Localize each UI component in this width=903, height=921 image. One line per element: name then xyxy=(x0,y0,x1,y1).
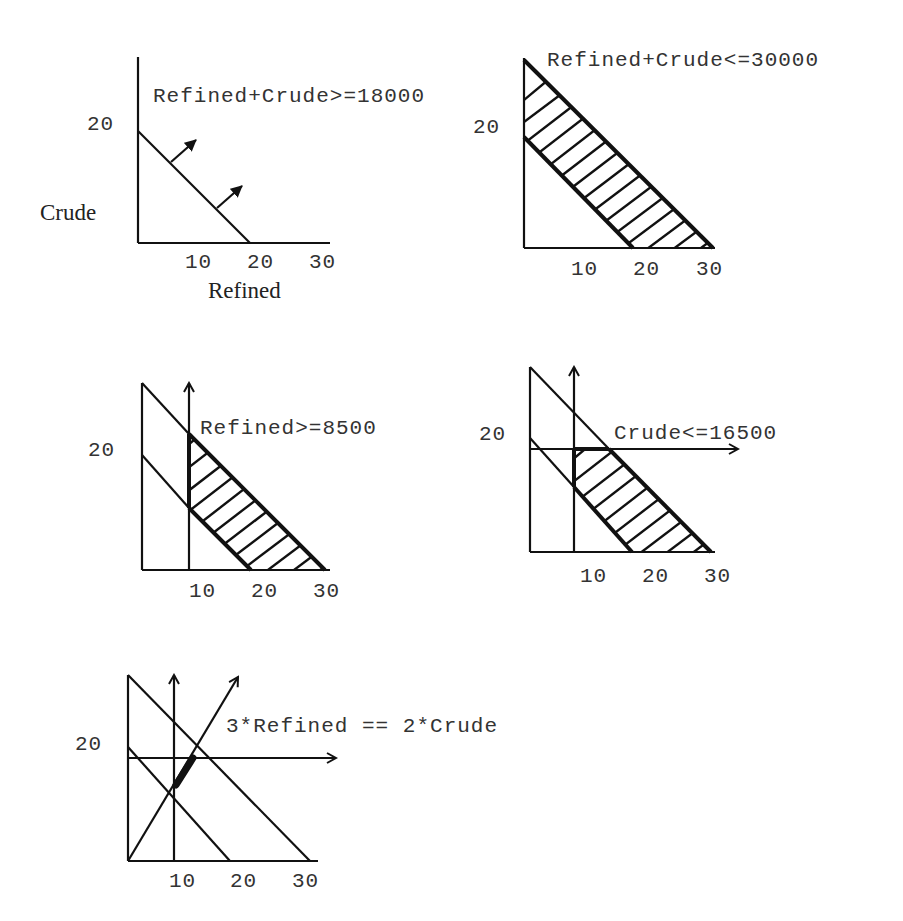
constraint-line-sum30 xyxy=(128,675,310,861)
constraint-line-sum30-outer xyxy=(530,367,609,449)
x-tick-30: 30 xyxy=(292,870,319,893)
panel-label: 3*Refined == 2*Crude xyxy=(226,715,498,738)
panel-label: Crude<=16500 xyxy=(614,422,777,445)
x-tick-30: 30 xyxy=(704,565,731,588)
x-tick-10: 10 xyxy=(169,870,196,893)
x-tick-10: 10 xyxy=(571,258,598,281)
diagram-canvas: Refined+Crude>=18000 20 Crude 10 20 30 R… xyxy=(0,0,903,921)
x-axis-label: Refined xyxy=(208,278,281,303)
constraint-line-sum18 xyxy=(189,508,251,570)
panel-5: 3*Refined == 2*Crude 20 10 20 30 xyxy=(75,675,498,893)
constraint-line-sum30 xyxy=(524,60,713,248)
arrow-icon xyxy=(171,140,196,162)
panel-3: Refined>=8500 20 10 20 30 xyxy=(88,383,490,639)
x-tick-20: 20 xyxy=(633,258,660,281)
feasible-segment xyxy=(176,758,193,785)
x-tick-10: 10 xyxy=(185,251,212,274)
x-tick-20: 20 xyxy=(642,565,669,588)
panel-label: Refined+Crude<=30000 xyxy=(547,49,819,72)
x-tick-20: 20 xyxy=(230,870,257,893)
x-tick-10: 10 xyxy=(189,580,216,603)
panel-1: Refined+Crude>=18000 20 Crude 10 20 30 R… xyxy=(40,57,425,303)
hatch-fill xyxy=(500,70,880,332)
x-tick-30: 30 xyxy=(309,251,336,274)
panel-4: Crude<=16500 20 10 20 30 xyxy=(479,367,840,624)
panel-label: Refined+Crude>=18000 xyxy=(153,85,425,108)
constraint-line-sum18 xyxy=(138,131,250,243)
constraint-line-sum30 xyxy=(189,434,325,570)
constraint-line-sum18 xyxy=(574,487,632,552)
constraint-line-sum30-outer xyxy=(142,383,189,434)
y-axis-label: Crude xyxy=(40,200,96,225)
panel-label: Refined>=8500 xyxy=(200,417,377,440)
y-tick-20: 20 xyxy=(88,439,115,462)
hatch-fill xyxy=(170,410,490,639)
x-tick-30: 30 xyxy=(313,580,340,603)
y-tick-20: 20 xyxy=(473,116,500,139)
y-tick-20: 20 xyxy=(479,423,506,446)
x-tick-10: 10 xyxy=(580,565,607,588)
panel-2: Refined+Crude<=30000 20 10 20 30 xyxy=(473,49,880,332)
x-tick-30: 30 xyxy=(696,258,723,281)
constraint-line-sum18-outer xyxy=(530,438,574,487)
y-tick-20: 20 xyxy=(75,733,102,756)
x-tick-20: 20 xyxy=(251,580,278,603)
y-tick-20: 20 xyxy=(87,113,114,136)
arrow-icon xyxy=(217,186,242,208)
x-tick-20: 20 xyxy=(247,251,274,274)
constraint-line-sum18-outer xyxy=(142,455,189,508)
